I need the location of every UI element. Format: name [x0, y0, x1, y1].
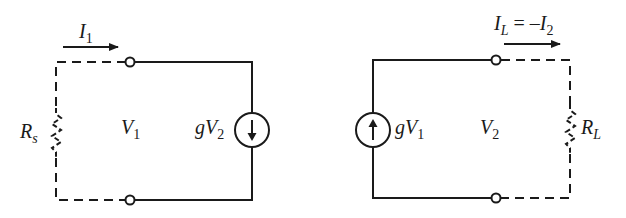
label-gv1: gV1: [395, 116, 424, 142]
input-circuit: [52, 47, 269, 205]
output-circuit: [356, 44, 575, 203]
label-rl: RL: [580, 116, 601, 142]
label-v1: V1: [121, 116, 140, 142]
label-rs: Rs: [19, 120, 38, 146]
output-terminal-top: [492, 56, 501, 65]
output-wire-top: [373, 60, 492, 113]
dashed-load-wire-bottom: [501, 154, 570, 198]
label-i1: I1: [78, 20, 93, 46]
dashed-load-wire: [501, 60, 570, 106]
dashed-source-wire: [56, 62, 126, 110]
label-il-eq-minus-i2: IL = –I2: [493, 12, 553, 38]
input-wire-top: [135, 62, 253, 113]
input-wire-bottom: [135, 147, 253, 200]
label-gv2: gV2: [195, 116, 224, 142]
dashed-source-wire-bottom: [56, 158, 126, 200]
label-v2: V2: [480, 116, 499, 142]
input-terminal-top: [126, 58, 135, 67]
output-wire-bottom: [373, 147, 492, 198]
input-terminal-bottom: [126, 196, 135, 205]
resistor-rl: [566, 104, 575, 154]
output-terminal-bottom: [492, 194, 501, 203]
resistor-rs: [52, 108, 61, 158]
circuit-diagram: I1 Rs V1 gV2 IL = –I2 gV1 V2 RL: [0, 0, 626, 218]
